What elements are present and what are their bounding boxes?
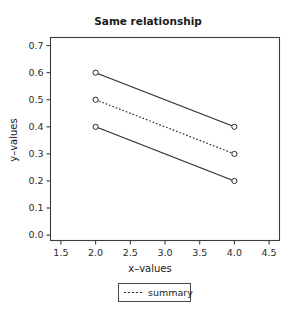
x-tick-label: 4.5 xyxy=(262,247,277,258)
data-point-marker xyxy=(93,124,98,129)
y-tick-label: 0.5 xyxy=(28,94,43,105)
data-point-marker xyxy=(93,70,98,75)
data-point-marker xyxy=(232,178,237,183)
line-chart: Same relationship 0.00.10.20.30.40.50.60… xyxy=(0,0,296,310)
data-point-marker xyxy=(232,124,237,129)
y-axis-title: y–values xyxy=(8,118,19,161)
chart-legend: summary xyxy=(119,284,194,302)
x-tick-label: 2.0 xyxy=(88,247,103,258)
data-point-marker xyxy=(93,97,98,102)
x-tick-label: 3.5 xyxy=(192,247,207,258)
chart-title: Same relationship xyxy=(94,15,202,27)
y-tick-label: 0.1 xyxy=(28,202,43,213)
x-tick-label: 1.5 xyxy=(53,247,68,258)
data-point-marker xyxy=(232,151,237,156)
x-tick-label: 4.0 xyxy=(227,247,242,258)
y-tick-label: 0.2 xyxy=(28,175,43,186)
x-axis-title: x–values xyxy=(128,263,171,274)
x-tick-label: 2.5 xyxy=(123,247,138,258)
y-tick-label: 0.6 xyxy=(28,67,43,78)
legend-label-summary: summary xyxy=(148,287,193,298)
x-tick-label: 3.0 xyxy=(157,247,172,258)
y-tick-label: 0.0 xyxy=(28,229,43,240)
chart-container: Same relationship 0.00.10.20.30.40.50.60… xyxy=(0,0,296,310)
y-tick-label: 0.4 xyxy=(28,121,43,132)
y-tick-label: 0.7 xyxy=(28,40,43,51)
y-tick-label: 0.3 xyxy=(28,148,43,159)
